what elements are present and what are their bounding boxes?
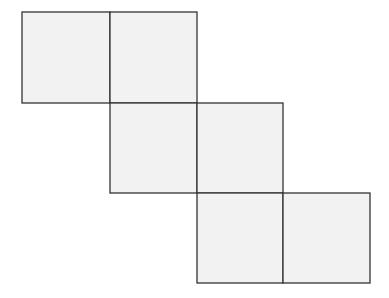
net-square-1	[22, 12, 110, 103]
net-square-4	[197, 103, 283, 193]
net-square-6	[283, 193, 370, 283]
cube-net-diagram	[0, 0, 389, 298]
net-square-5	[197, 193, 283, 283]
net-square-3	[110, 103, 197, 193]
net-square-2	[110, 12, 197, 103]
